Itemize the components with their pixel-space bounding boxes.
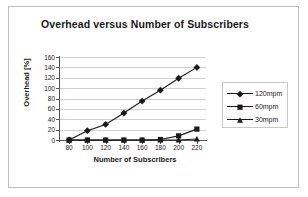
y-axis-tick-label: 0: [33, 137, 55, 144]
legend-item-120mpm[interactable]: 120mpm: [227, 87, 282, 100]
legend: 120mpm60mpm30mpm: [222, 82, 288, 128]
gridline: [60, 88, 206, 89]
y-axis-title: Overhead [%]: [22, 53, 31, 113]
y-axis-tick-mark: [56, 99, 59, 100]
gridline: [60, 57, 206, 58]
y-axis-tick-label: 160: [33, 54, 55, 61]
data-point-square: [237, 104, 242, 109]
y-axis-tick-label: 140: [33, 64, 55, 71]
y-axis-tick-label: 60: [33, 105, 55, 112]
legend-marker-diamond-icon: [227, 89, 253, 99]
x-axis-tick-mark: [124, 141, 125, 144]
legend-item-60mpm[interactable]: 60mpm: [227, 100, 278, 113]
y-axis-tick-mark: [56, 140, 59, 141]
x-axis-tick-mark: [106, 141, 107, 144]
x-axis-tick-mark: [197, 141, 198, 144]
legend-marker-square-icon: [227, 102, 253, 112]
x-axis-tick-mark: [142, 141, 143, 144]
x-axis-tick-mark: [87, 141, 88, 144]
y-axis-tick-mark: [56, 57, 59, 58]
legend-label: 30mpm: [255, 116, 278, 123]
y-axis-tick-mark: [56, 119, 59, 120]
x-axis-tick-mark: [160, 141, 161, 144]
y-axis-line: [59, 56, 60, 142]
legend-item-30mpm[interactable]: 30mpm: [227, 113, 278, 126]
y-axis-tick-label: 100: [33, 85, 55, 92]
y-axis-tick-label: 40: [33, 116, 55, 123]
legend-label: 60mpm: [255, 103, 278, 110]
gridline: [60, 67, 206, 68]
gridline: [60, 78, 206, 79]
x-axis-tick-mark: [179, 141, 180, 144]
y-axis-tick-label: 20: [33, 126, 55, 133]
data-point-diamond: [237, 90, 244, 97]
x-axis-title: Number of Subscribers: [55, 155, 215, 164]
x-axis-tick-mark: [69, 141, 70, 144]
y-axis-tick-mark: [56, 88, 59, 89]
x-axis-tick-label: 220: [185, 144, 209, 151]
chart-figure: Overhead versus Number of Subscribers 02…: [0, 0, 308, 197]
gridline: [60, 119, 206, 120]
gridline: [60, 109, 206, 110]
data-point-triangle: [237, 117, 243, 123]
y-axis-tick-mark: [56, 78, 59, 79]
x-axis-line: [59, 140, 207, 141]
legend-label: 120mpm: [255, 90, 282, 97]
chart-title: Overhead versus Number of Subscribers: [20, 18, 270, 30]
y-axis-tick-label: 80: [33, 95, 55, 102]
y-axis-tick-mark: [56, 109, 59, 110]
y-axis-tick-label: 120: [33, 74, 55, 81]
gridline: [60, 99, 206, 100]
plot-area: [60, 57, 206, 140]
y-axis-tick-mark: [56, 67, 59, 68]
legend-marker-triangle-icon: [227, 115, 253, 125]
y-axis-tick-mark: [56, 130, 59, 131]
gridline: [60, 130, 206, 131]
